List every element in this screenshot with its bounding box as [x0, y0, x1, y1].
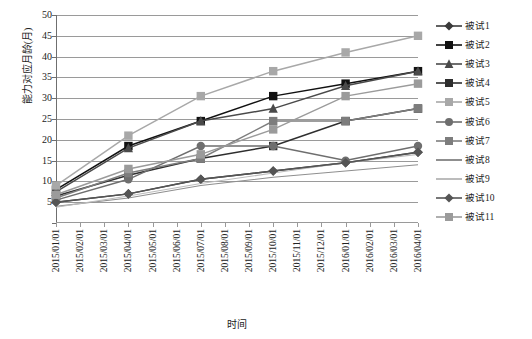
- series-line: [56, 146, 418, 200]
- x-tick-label: 2016/02/01: [365, 229, 375, 272]
- legend-label: 被试11: [465, 212, 494, 222]
- plot-area: 5101520253035404550 2015/01/012015/02/01…: [56, 15, 418, 223]
- legend-label: 被试10: [465, 193, 495, 203]
- x-tick-label: 2015/01/01: [51, 229, 61, 272]
- legend-marker-icon: [436, 38, 462, 52]
- x-tick-mark: [394, 223, 395, 227]
- data-point: [413, 147, 423, 157]
- legend-label: 被试6: [465, 117, 490, 127]
- data-point: [197, 142, 205, 150]
- data-point: [52, 181, 60, 189]
- data-point: [414, 32, 422, 40]
- series-line: [56, 71, 418, 190]
- legend-marker-icon: [436, 210, 462, 224]
- x-tick-mark: [273, 223, 274, 227]
- legend-item-7[interactable]: 被试7: [436, 131, 530, 150]
- x-tick-mark: [225, 223, 226, 227]
- legend-item-8[interactable]: 被试8: [436, 150, 530, 169]
- series-layer: [56, 15, 418, 223]
- series-line: [56, 109, 418, 196]
- x-axis-title: 时间: [56, 316, 418, 331]
- x-tick-label: 2016/03/01: [389, 229, 399, 272]
- series-line: [56, 71, 418, 192]
- legend-label: 被试2: [465, 40, 490, 50]
- y-tick-label: 50: [42, 10, 52, 20]
- data-point: [268, 166, 278, 176]
- legend-label: 被试4: [465, 78, 490, 88]
- x-tick-label: 2015/07/01: [196, 229, 206, 272]
- legend-marker-icon: [436, 57, 462, 71]
- x-tick-mark: [104, 223, 105, 227]
- series-line: [56, 165, 418, 207]
- series-8: [56, 165, 418, 207]
- legend-label: 被试9: [465, 174, 490, 184]
- x-tick-mark: [80, 223, 81, 227]
- data-point: [124, 165, 132, 173]
- x-tick-mark: [128, 223, 129, 227]
- x-tick-mark: [346, 223, 347, 227]
- series-6: [52, 142, 422, 204]
- legend-label: 被试1: [465, 21, 490, 31]
- x-tick-label: 2015/06/01: [172, 229, 182, 272]
- x-tick-mark: [177, 223, 178, 227]
- legend-marker-icon: [436, 76, 462, 90]
- legend-item-4[interactable]: 被试4: [436, 74, 530, 93]
- series-7: [52, 104, 422, 202]
- legend-item-10[interactable]: 被试10: [436, 189, 530, 208]
- legend-label: 被试7: [465, 136, 490, 146]
- legend-item-9[interactable]: 被试9: [436, 170, 530, 189]
- x-tick-label: 2015/02/01: [75, 229, 85, 272]
- x-tick-label: 2015/12/01: [316, 229, 326, 272]
- x-tick-mark: [370, 223, 371, 227]
- x-tick-mark: [249, 223, 250, 227]
- x-tick-mark: [56, 223, 57, 227]
- x-tick-label: 2015/05/01: [148, 229, 158, 272]
- legend-marker-icon: [436, 19, 462, 33]
- y-tick-label: 40: [42, 52, 52, 62]
- legend-item-2[interactable]: 被试2: [436, 35, 530, 54]
- y-tick-label: 30: [42, 93, 52, 103]
- x-tick-mark: [297, 223, 298, 227]
- legend-label: 被试8: [465, 155, 490, 165]
- x-tick-label: 2015/04/01: [123, 229, 133, 272]
- y-tick-label: 15: [42, 156, 52, 166]
- data-point: [269, 142, 277, 150]
- x-tick-label: 2015/10/01: [268, 229, 278, 272]
- y-tick-label: 10: [42, 176, 52, 186]
- data-point: [341, 92, 349, 100]
- x-tick-mark: [418, 223, 419, 227]
- y-tick-label: 25: [42, 114, 52, 124]
- chart-container: 能力对应月龄(月) 5101520253035404550 2015/01/01…: [0, 0, 532, 339]
- y-tick-label: 45: [42, 31, 52, 41]
- x-tick-mark: [153, 223, 154, 227]
- legend-item-3[interactable]: 被试3: [436, 54, 530, 73]
- data-point: [414, 104, 422, 112]
- x-tick-label: 2016/01/01: [341, 229, 351, 272]
- legend-item-11[interactable]: 被试11: [436, 208, 530, 227]
- chart-legend: 被试1被试2被试3被试4被试5被试6被试7被试8被试9被试10被试11: [436, 16, 530, 227]
- y-tick-label: 35: [42, 72, 52, 82]
- x-tick-mark: [321, 223, 322, 227]
- legend-marker-icon: [436, 95, 462, 109]
- x-tick-label: 2016/04/01: [413, 229, 423, 272]
- legend-item-5[interactable]: 被试5: [436, 93, 530, 112]
- data-point: [341, 48, 349, 56]
- y-axis-title: 能力对应月龄(月): [22, 0, 34, 146]
- legend-item-6[interactable]: 被试6: [436, 112, 530, 131]
- legend-label: 被试5: [465, 97, 490, 107]
- data-point: [269, 92, 277, 100]
- legend-marker-icon: [436, 134, 462, 148]
- data-point: [269, 67, 277, 75]
- x-tick-label: 2015/09/01: [244, 229, 254, 272]
- data-point: [341, 117, 349, 125]
- data-point: [269, 117, 277, 125]
- data-point: [52, 191, 60, 199]
- legend-marker-icon: [436, 191, 462, 205]
- y-tick-label: 20: [42, 135, 52, 145]
- x-tick-label: 2015/11/01: [292, 229, 302, 272]
- data-point: [414, 79, 422, 87]
- legend-marker-icon: [436, 172, 462, 186]
- legend-item-1[interactable]: 被试1: [436, 16, 530, 35]
- x-tick-mark: [201, 223, 202, 227]
- x-tick-label: 2015/03/01: [99, 229, 109, 272]
